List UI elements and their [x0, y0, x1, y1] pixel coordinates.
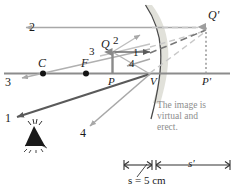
- point-V-label: V: [150, 76, 157, 87]
- object-distance-label: s = 5 cm: [128, 175, 166, 186]
- point-Q-prime-label: Q': [208, 9, 219, 21]
- point-C-label: C: [38, 57, 46, 69]
- point-C-dot: [40, 71, 46, 77]
- point-P-prime-label: P': [202, 76, 211, 87]
- ray-2-mid-label: 2: [113, 35, 119, 46]
- caption-line-3: erect.: [157, 122, 178, 133]
- point-F-label: F: [81, 57, 88, 69]
- ray-diagram-figure: 2 2 3 3 1 1 4 4 C F P V P' Q Q' The imag…: [0, 0, 242, 194]
- point-F-dot: [83, 71, 89, 77]
- ray-2-left-label: 2: [29, 21, 35, 33]
- caption-line-2: virtual and: [157, 111, 198, 122]
- ray-1-left-label: 1: [5, 112, 11, 124]
- caption-line-1: The image is: [157, 100, 206, 111]
- diagram-canvas: [0, 0, 242, 194]
- ray-4-lower-label: 4: [80, 127, 86, 139]
- ray-3-mid-label: 3: [89, 46, 95, 57]
- image-distance-label: s': [188, 158, 195, 169]
- observer-eye-icon: [24, 119, 47, 153]
- ray-4-reflected: [90, 74, 150, 126]
- ray-4-mid-label: 4: [129, 58, 135, 69]
- ray-1-reflected-to-eye: [17, 74, 150, 117]
- mirror-glow: [146, 5, 169, 104]
- point-P-label: P: [108, 76, 115, 87]
- ray-4-virtual-extension: [150, 32, 205, 73]
- point-Q-label: Q: [101, 38, 110, 50]
- ray-3-left-label: 3: [5, 76, 11, 88]
